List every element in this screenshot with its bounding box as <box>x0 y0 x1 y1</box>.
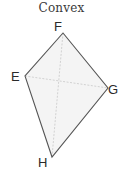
vertex-label-e: E <box>11 69 20 84</box>
vertex-label-g: G <box>108 82 118 97</box>
vertex-label-h: H <box>38 155 47 170</box>
vertex-label-f: F <box>54 19 62 34</box>
convex-quadrilateral-diagram: F E G H <box>0 0 123 179</box>
